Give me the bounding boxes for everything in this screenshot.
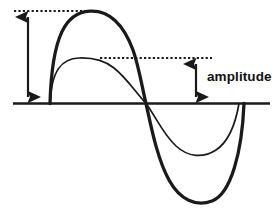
amplitude-label: amplitude [207,69,272,85]
large-amplitude-wave [50,11,244,203]
waveform-graphic [0,0,278,215]
amplitude-diagram: amplitude [0,0,278,215]
